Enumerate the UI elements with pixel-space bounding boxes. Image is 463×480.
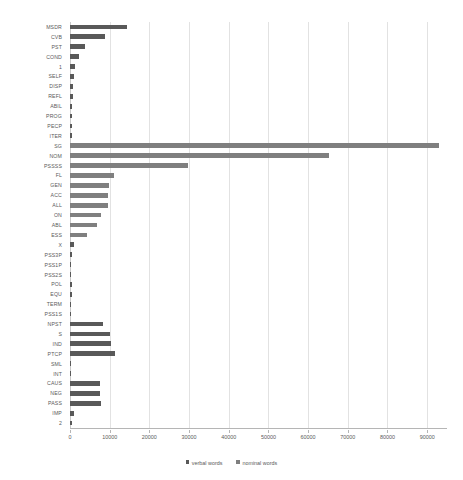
x-axis-tick [110, 430, 111, 433]
legend-swatch-icon [186, 460, 190, 464]
bar-row [70, 260, 447, 270]
y-axis-labels: MSDRCVBPSTCOND1SELFDISPREFLABILPROGPECPI… [0, 22, 66, 428]
bar-row [70, 230, 447, 240]
bar-row [70, 388, 447, 398]
y-axis-tick-label: SG [54, 143, 62, 149]
x-axis-tick [348, 430, 349, 433]
y-axis-tick-label: S [58, 331, 62, 337]
y-axis-tick-label: TERM [47, 301, 62, 307]
y-axis-tick-label: PSS1P [45, 262, 62, 268]
bar-row [70, 101, 447, 111]
bar-row [70, 240, 447, 250]
bar-row [70, 289, 447, 299]
bar-row [70, 91, 447, 101]
y-axis-tick-label: 1 [59, 64, 62, 70]
bar-verbal-words [70, 84, 73, 89]
bar-verbal-words [70, 341, 111, 346]
bar-verbal-words [70, 104, 72, 109]
bar-verbal-words [70, 292, 72, 297]
y-axis-tick-label: FL [56, 172, 62, 178]
bar-verbal-words [70, 74, 74, 79]
bar-row [70, 369, 447, 379]
y-axis-tick-label: IND [53, 341, 62, 347]
y-axis-tick-label: CVB [51, 34, 62, 40]
x-axis-tick [149, 430, 150, 433]
bar-row [70, 141, 447, 151]
bar-verbal-words [70, 322, 103, 327]
bar-verbal-words [70, 421, 72, 426]
bar-verbal-words [70, 401, 101, 406]
x-axis-tick-label: 70000 [340, 434, 355, 441]
bar-row [70, 22, 447, 32]
y-axis-tick-label: PSS3P [45, 252, 62, 258]
bar-verbal-words [70, 371, 71, 376]
bar-verbal-words [70, 272, 71, 277]
bar-row [70, 190, 447, 200]
bar-row [70, 111, 447, 121]
bar-row [70, 319, 447, 329]
bar-verbal-words [70, 94, 73, 99]
x-axis-tick [268, 430, 269, 433]
bar-verbal-words [70, 381, 100, 386]
bar-row [70, 250, 447, 260]
bar-row [70, 398, 447, 408]
bar-row [70, 408, 447, 418]
y-axis-tick-label: POL [51, 281, 62, 287]
x-axis-line [70, 428, 447, 429]
bar-nominal-words [70, 193, 108, 198]
bar-verbal-words [70, 391, 100, 396]
y-axis-tick-label: PECP [47, 123, 62, 129]
bar-nominal-words [70, 223, 97, 228]
bar-row [70, 339, 447, 349]
bar-row [70, 121, 447, 131]
y-axis-tick-label: PASS [48, 400, 62, 406]
bar-verbal-words [70, 242, 74, 247]
y-axis-tick-label: PTCP [48, 351, 62, 357]
bar-row [70, 210, 447, 220]
bar-row [70, 52, 447, 62]
x-axis-tick-label: 60000 [301, 434, 316, 441]
bar-verbal-words [70, 312, 71, 317]
y-axis-tick-label: SELF [48, 73, 62, 79]
bar-row [70, 62, 447, 72]
x-axis-tick-label: 10000 [102, 434, 117, 441]
bar-row [70, 42, 447, 52]
y-axis-tick-label: 2 [59, 420, 62, 426]
y-axis-tick-label: MSDR [46, 24, 62, 30]
bar-verbal-words [70, 54, 79, 59]
y-axis-tick-label: ALL [52, 202, 62, 208]
x-axis-tick [387, 430, 388, 433]
bar-verbal-words [70, 351, 115, 356]
bar-row [70, 359, 447, 369]
bar-nominal-words [70, 153, 329, 158]
bar-series-container [70, 22, 447, 428]
legend-label: verbal words [192, 460, 223, 466]
x-axis-tick [70, 430, 71, 433]
y-axis-tick-label: ITER [50, 133, 62, 139]
y-axis-tick-label: DISP [49, 83, 62, 89]
y-axis-tick-label: PSS2S [45, 272, 62, 278]
bar-row [70, 309, 447, 319]
legend-item[interactable]: nominal words [236, 458, 277, 467]
x-axis-tick-label: 40000 [221, 434, 236, 441]
bar-verbal-words [70, 252, 72, 257]
y-axis-tick-label: ACC [51, 192, 62, 198]
bar-row [70, 81, 447, 91]
legend-item[interactable]: verbal words [186, 458, 223, 467]
bar-row [70, 279, 447, 289]
y-axis-tick-label: ESS [51, 232, 62, 238]
x-axis-tick-label: 0 [69, 434, 72, 441]
bar-verbal-words [70, 302, 71, 307]
y-axis-tick-label: REFL [48, 93, 62, 99]
legend-swatch-icon [236, 460, 240, 464]
bar-nominal-words [70, 183, 109, 188]
bar-verbal-words [70, 411, 74, 416]
y-axis-tick-label: CAUS [47, 380, 62, 386]
bar-row [70, 151, 447, 161]
y-axis-tick-label: PSSSS [44, 163, 62, 169]
x-axis-tick-label: 80000 [380, 434, 395, 441]
chart-legend: verbal wordsnominal words [0, 458, 463, 467]
bar-row [70, 220, 447, 230]
y-axis-tick-label: NOM [49, 153, 62, 159]
bar-verbal-words [70, 114, 72, 119]
